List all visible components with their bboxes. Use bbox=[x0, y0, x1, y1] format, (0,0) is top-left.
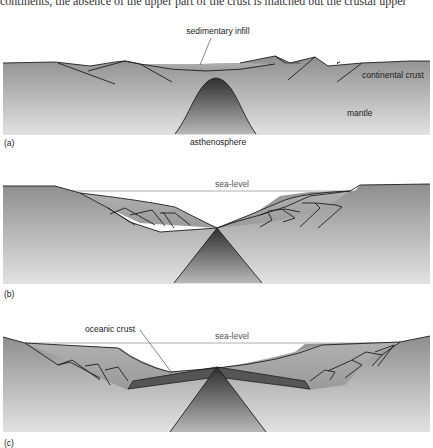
panel-label-b: (b) bbox=[4, 289, 15, 299]
panel-c: oceanic crust sea-level (c) bbox=[3, 324, 430, 448]
label-continental-crust: continental crust bbox=[362, 70, 425, 80]
label-mantle: mantle bbox=[347, 108, 373, 118]
rifting-diagram: sedimentary infill continental crust man… bbox=[0, 0, 433, 448]
panel-b: sea-level (b) bbox=[3, 179, 430, 299]
label-sedimentary-infill: sedimentary infill bbox=[186, 26, 249, 36]
label-sea-level: sea-level bbox=[215, 331, 249, 341]
panel-label-c: (c) bbox=[4, 438, 14, 448]
label-oceanic-crust: oceanic crust bbox=[85, 324, 136, 334]
panel-a: sedimentary infill continental crust man… bbox=[3, 26, 430, 148]
label-asthenosphere: asthenosphere bbox=[190, 137, 247, 147]
panel-label-a: (a) bbox=[4, 138, 15, 148]
label-sea-level: sea-level bbox=[215, 179, 249, 189]
